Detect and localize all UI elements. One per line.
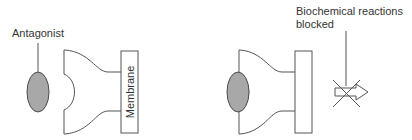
membrane-label: Membrane — [124, 66, 136, 119]
effect-label-line2: blocked — [296, 18, 334, 30]
membrane-rect-right — [295, 51, 312, 133]
antagonist-molecule — [27, 72, 49, 112]
antagonist-molecule-bound — [227, 72, 249, 112]
effect-label-line1: Biochemical reactions — [296, 5, 403, 17]
antagonist-diagram: Antagonist Membrane Biochemical reaction… — [0, 0, 412, 140]
right-panel: Biochemical reactions blocked — [227, 5, 403, 134]
left-panel: Antagonist Membrane — [12, 27, 138, 134]
receptor-shape — [64, 50, 121, 134]
antagonist-label: Antagonist — [12, 27, 64, 39]
blocked-arrow-icon — [333, 80, 368, 107]
